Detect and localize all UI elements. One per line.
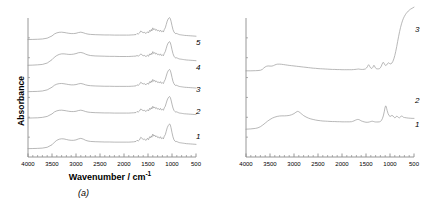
panel-a-caption: (a) [78,188,89,198]
panel-a-xtick-label: 500 [191,161,201,167]
panel-a-trace-label-3: 3 [196,85,200,94]
panel-b-plot [218,0,436,210]
panel-b-trace-label-1: 1 [415,120,419,129]
panel-b-xtick-label: 1000 [383,161,396,167]
panel-b-xtick-label: 2500 [311,161,324,167]
panel-a-xtick-label: 2000 [117,161,130,167]
panel-a-xtick-label: 3500 [45,161,58,167]
panel-a: Absorbance Wavenumber / cm-1 (a) 4000350… [0,0,218,210]
panel-a-x-axis-label: Wavenumber / cm-1 [30,170,190,182]
panel-a-trace-label-1: 1 [196,132,200,141]
panel-b-xtick-label: 2000 [335,161,348,167]
panel-b-xtick-label: 1500 [359,161,372,167]
panel-a-trace-label-5: 5 [196,38,200,47]
panel-a-x-axis-label-exponent: -1 [145,170,151,177]
panel-a-xtick-label: 1500 [141,161,154,167]
panel-a-x-axis-label-text: Wavenumber / cm [69,172,146,182]
panel-b-trace-label-3: 3 [415,25,419,34]
panel-b-xtick-label: 4000 [239,161,252,167]
panel-b: Absorbance Wavenumber / cm-1 (b) 4000350… [218,0,436,210]
panel-a-trace-label-4: 4 [196,63,200,72]
panel-b-trace-label-2: 2 [415,96,419,105]
panel-a-xtick-label: 3000 [69,161,82,167]
panel-b-xtick-label: 3500 [263,161,276,167]
panel-a-xtick-label: 1000 [165,161,178,167]
panel-a-y-axis-label: Absorbance [16,76,26,126]
figure-container: Absorbance Wavenumber / cm-1 (a) 4000350… [0,0,436,210]
panel-a-xtick-label: 2500 [93,161,106,167]
panel-a-trace-label-2: 2 [196,107,200,116]
panel-b-xtick-label: 3000 [287,161,300,167]
panel-a-xtick-label: 4000 [21,161,34,167]
panel-b-xtick-label: 500 [409,161,419,167]
